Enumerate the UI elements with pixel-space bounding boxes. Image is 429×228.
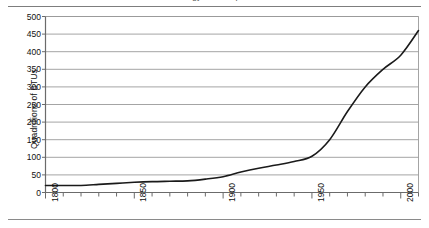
x-tick-label: 1800 <box>50 183 60 202</box>
chart-page: energy consumption Quadrillions of BTUs … <box>0 0 429 228</box>
x-tick-label: 1850 <box>138 183 148 202</box>
line-chart: Quadrillions of BTUs 0501001502002503003… <box>0 0 429 228</box>
x-tick-label: 1900 <box>227 183 237 202</box>
data-series-line <box>46 31 419 186</box>
x-tick-label: 2000 <box>405 183 415 202</box>
x-tick-label: 1950 <box>316 183 326 202</box>
plot-canvas <box>0 0 429 228</box>
